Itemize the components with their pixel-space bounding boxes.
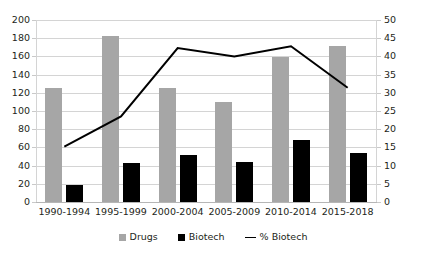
category-axis-line — [36, 202, 377, 203]
category-label: 1995-1999 — [93, 206, 150, 218]
right-axis-tick-label: 50 — [384, 15, 396, 25]
legend-label: Drugs — [130, 232, 158, 242]
right-axis-tick-label: 10 — [384, 161, 396, 171]
left-axis-tick-label: 80 — [2, 124, 30, 134]
legend-swatch-biotech — [178, 234, 185, 241]
left-axis-tick-label: 140 — [2, 70, 30, 80]
left-axis-tick-label: 120 — [2, 88, 30, 98]
chart-legend: DrugsBiotech% Biotech — [0, 228, 426, 246]
left-axis-tick-label: 200 — [2, 15, 30, 25]
right-axis-tick-mark — [377, 56, 381, 57]
legend-item[interactable]: Drugs — [119, 232, 158, 242]
left-axis-tick-label: 0 — [2, 197, 30, 207]
category-label: 2000-2004 — [149, 206, 206, 218]
right-axis-tick-label: 5 — [384, 179, 390, 189]
right-axis-tick-mark — [377, 129, 381, 130]
right-axis-tick-label: 35 — [384, 70, 396, 80]
right-axis-tick-mark — [377, 75, 381, 76]
right-axis-tick-mark — [377, 184, 381, 185]
right-axis-tick-mark — [377, 93, 381, 94]
legend-item[interactable]: Biotech — [178, 232, 225, 242]
category-label: 2015-2018 — [319, 206, 376, 218]
category-label: 2005-2009 — [206, 206, 263, 218]
right-axis-tick-mark — [377, 111, 381, 112]
right-axis-tick-label: 45 — [384, 33, 396, 43]
percent-biotech-line — [36, 20, 376, 202]
right-axis-tick-mark — [377, 202, 381, 203]
legend-label: Biotech — [189, 232, 225, 242]
category-label: 2010-2014 — [263, 206, 320, 218]
right-axis-tick-label: 30 — [384, 88, 396, 98]
right-axis-tick-label: 40 — [384, 51, 396, 61]
category-labels: 1990-19941995-19992000-20042005-20092010… — [36, 206, 376, 222]
left-axis-tick-label: 180 — [2, 33, 30, 43]
legend-swatch-biotech — [245, 237, 256, 238]
category-label: 1990-1994 — [36, 206, 93, 218]
right-axis-tick-label: 15 — [384, 142, 396, 152]
legend-swatch-drugs — [119, 234, 126, 241]
left-axis-tick-mark — [32, 202, 36, 203]
right-axis-tick-label: 0 — [384, 197, 390, 207]
legend-item[interactable]: % Biotech — [245, 232, 308, 242]
right-axis-tick-label: 25 — [384, 106, 396, 116]
left-axis-tick-label: 160 — [2, 51, 30, 61]
right-axis-tick-mark — [377, 20, 381, 21]
legend-label: % Biotech — [260, 232, 308, 242]
line-path-percent-biotech — [64, 46, 347, 146]
chart-container: 020406080100120140160180200 051015202530… — [0, 0, 426, 255]
right-axis-tick-mark — [377, 147, 381, 148]
left-axis-tick-label: 100 — [2, 106, 30, 116]
right-axis-tick-label: 20 — [384, 124, 396, 134]
left-axis-tick-label: 20 — [2, 179, 30, 189]
left-axis-tick-label: 60 — [2, 142, 30, 152]
left-axis-tick-label: 40 — [2, 161, 30, 171]
right-axis-tick-mark — [377, 166, 381, 167]
right-axis-tick-mark — [377, 38, 381, 39]
